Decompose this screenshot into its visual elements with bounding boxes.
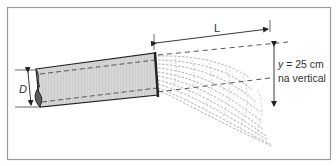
pipe-water-jet-diagram: D L y = 25 cm na vertical	[0, 0, 336, 166]
diameter-label: D	[19, 83, 27, 95]
length-label: L	[214, 22, 220, 34]
vertical-drop-label: y = 25 cm	[277, 58, 324, 70]
vertical-note-label: na vertical	[278, 72, 326, 84]
vertical-drop-value: = 25 cm	[283, 58, 324, 70]
